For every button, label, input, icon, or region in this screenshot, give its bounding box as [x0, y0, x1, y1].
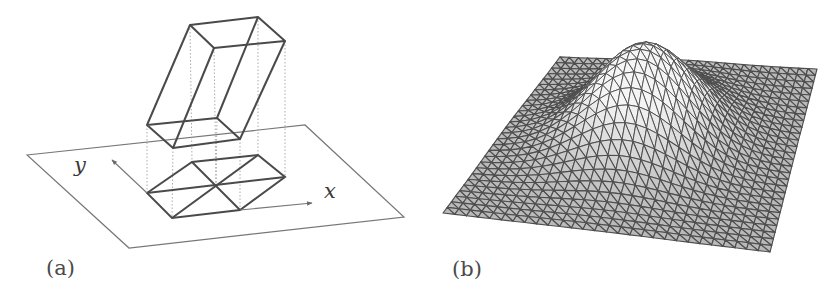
panel-b: (b)	[443, 42, 817, 281]
panel-b-label: (b)	[452, 257, 482, 281]
x-axis-label: x	[324, 179, 336, 203]
triangular-mesh-surface	[443, 42, 817, 252]
panel-a: x y (a)	[27, 17, 404, 280]
y-axis-label: y	[73, 153, 87, 177]
figure-canvas: x y (a) (b)	[0, 0, 836, 299]
x-axis-arrow	[240, 203, 312, 210]
panel-a-label: (a)	[46, 256, 75, 280]
y-axis-arrow	[112, 160, 147, 193]
oblique-prism	[147, 17, 285, 148]
